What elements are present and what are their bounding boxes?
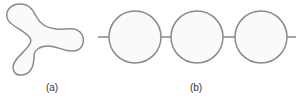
panel-b-label: (b) [190, 82, 202, 94]
figure: (a) (b) [0, 0, 302, 99]
panel-a-shape [7, 4, 84, 75]
trefoil-curve [7, 4, 84, 75]
circle-1 [109, 11, 161, 63]
circle-3 [235, 11, 287, 63]
panel-b-chain [98, 11, 296, 63]
panel-a-label: (a) [46, 82, 58, 94]
circle-2 [171, 11, 223, 63]
